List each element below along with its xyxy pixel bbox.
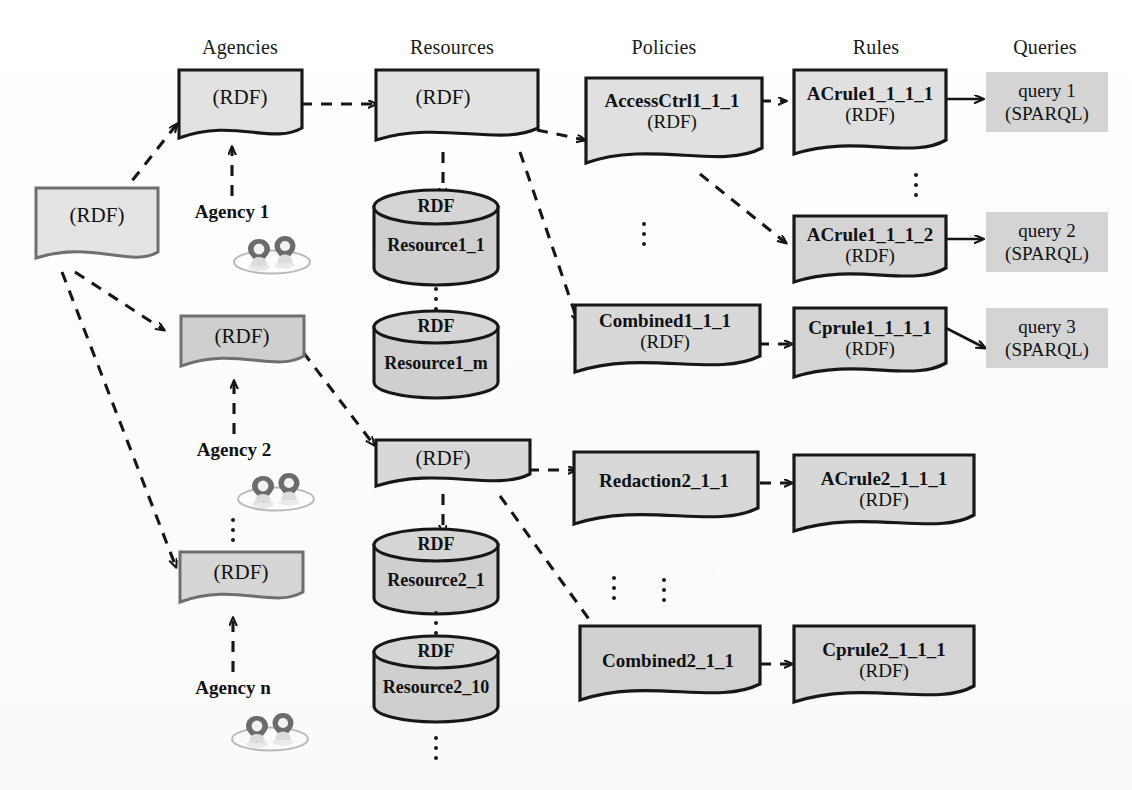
node-acrule1_1[interactable] (794, 70, 946, 154)
node-combined1[interactable] (575, 305, 760, 372)
column-header-queries: Queries (1013, 36, 1077, 59)
agency-1-people-icon (229, 225, 315, 281)
node-query1[interactable] (986, 72, 1108, 132)
node-cprule1[interactable] (794, 308, 946, 377)
column-header-rules: Rules (853, 36, 900, 59)
node-agency1-rdf[interactable] (179, 70, 302, 138)
ellipsis-resources-3 (434, 736, 438, 760)
node-agency2-rdf[interactable] (181, 316, 304, 366)
node-accessctrl1[interactable] (586, 78, 762, 163)
node-acrule1_2[interactable] (794, 216, 946, 282)
node-root-rdf[interactable] (36, 188, 158, 258)
node-agencyn-rdf[interactable] (180, 552, 303, 602)
ellipsis-policies-1 (642, 222, 646, 246)
node-resource2_1[interactable] (374, 529, 498, 614)
node-redaction2[interactable] (574, 452, 758, 524)
column-header-policies: Policies (632, 36, 697, 59)
ellipsis-agencies (231, 518, 235, 542)
node-acrule2[interactable] (794, 455, 974, 531)
node-resource1_m[interactable] (374, 311, 498, 398)
node-resources1-rdf[interactable] (376, 70, 538, 140)
ellipsis-rules-2 (612, 576, 616, 600)
node-query3[interactable] (986, 308, 1108, 368)
ellipsis-policies-2 (662, 578, 666, 602)
node-resources2-rdf[interactable] (376, 440, 530, 486)
agency-2-people-icon (233, 462, 319, 518)
ellipsis-rules-1 (914, 173, 918, 197)
node-resource2_10[interactable] (374, 636, 498, 722)
node-query2[interactable] (986, 212, 1108, 272)
ellipsis-resources-1 (434, 287, 438, 311)
column-header-agencies: Agencies (202, 36, 278, 59)
agency-n-people-icon (227, 702, 313, 758)
column-header-resources: Resources (410, 36, 494, 59)
node-resource1_1[interactable] (374, 190, 498, 285)
shape-layer (0, 0, 1132, 790)
node-combined2[interactable] (580, 626, 760, 700)
ellipsis-resources-2 (434, 611, 438, 635)
node-cprule2[interactable] (794, 626, 974, 702)
diagram-canvas: Agencies Resources Policies Rules Querie… (0, 0, 1132, 790)
